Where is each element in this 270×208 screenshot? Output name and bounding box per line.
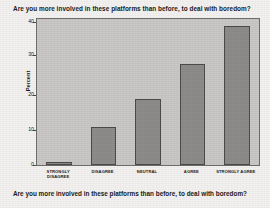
x-tick-label-agree: AGREE bbox=[167, 170, 215, 175]
x-tick-label-neutral: NEUTRAL bbox=[123, 170, 171, 175]
x-tick-label-strongly-agree: STRONGLY AGREE bbox=[212, 170, 260, 175]
plot-area bbox=[36, 18, 260, 166]
y-axis-label: Percent bbox=[25, 51, 31, 111]
bar bbox=[91, 127, 117, 165]
x-tick-label-disagree: DISAGREE bbox=[79, 170, 127, 175]
bar bbox=[46, 162, 72, 165]
bar bbox=[180, 64, 206, 165]
x-tick-line-2: DISAGREE bbox=[34, 175, 82, 180]
x-tick-label-strongly-disagree: STRONGLY DISAGREE bbox=[34, 170, 82, 179]
bars-container bbox=[37, 19, 259, 165]
bar bbox=[135, 99, 161, 165]
x-axis-label: Are you more involved in these platforms… bbox=[13, 190, 263, 197]
bar bbox=[224, 26, 250, 165]
chart-title: Are you more involved in these platforms… bbox=[13, 5, 263, 12]
chart-figure: Are you more involved in these platforms… bbox=[0, 0, 270, 208]
